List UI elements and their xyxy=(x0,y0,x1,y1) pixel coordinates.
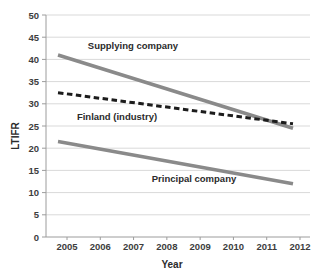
y-tick-label-50: 50 xyxy=(28,10,39,21)
x-tick-label-2010: 2010 xyxy=(223,241,244,252)
x-axis-title: Year xyxy=(161,259,182,270)
y-tick-label-35: 35 xyxy=(28,76,39,87)
x-tick-label-2008: 2008 xyxy=(156,241,177,252)
y-tick-label-25: 25 xyxy=(28,121,39,132)
y-tick-label-45: 45 xyxy=(28,32,39,43)
y-tick-label-10: 10 xyxy=(28,187,39,198)
ltifr-line-chart-figure: 0510152025303540455020052006200720082009… xyxy=(0,0,317,276)
y-tick-label-5: 5 xyxy=(34,209,40,220)
y-tick-label-20: 20 xyxy=(28,143,39,154)
y-axis-title: LTIFR xyxy=(10,122,21,150)
series-label-finland-industry: Finland (industry) xyxy=(77,111,157,122)
y-tick-label-40: 40 xyxy=(28,54,39,65)
y-tick-label-0: 0 xyxy=(34,232,39,243)
y-tick-label-30: 30 xyxy=(28,98,39,109)
x-tick-label-2006: 2006 xyxy=(90,241,111,252)
series-label-supplying-company: Supplying company xyxy=(88,40,178,51)
y-tick-label-15: 15 xyxy=(28,165,39,176)
x-tick-label-2007: 2007 xyxy=(123,241,144,252)
series-label-principal-company: Principal company xyxy=(152,173,236,184)
x-tick-label-2012: 2012 xyxy=(289,241,310,252)
x-tick-label-2011: 2011 xyxy=(256,241,277,252)
x-tick-label-2009: 2009 xyxy=(190,241,211,252)
x-tick-label-2005: 2005 xyxy=(56,241,78,252)
